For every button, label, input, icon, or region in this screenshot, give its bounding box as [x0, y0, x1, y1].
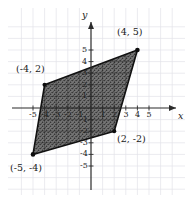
y-tick-label-neg1: -1 — [80, 116, 88, 124]
coordinate-plane-figure: y x -5 -4 -3 -2 -1 1 2 3 4 5 5 4 3 2 1 -… — [0, 0, 191, 200]
vertex-label-2-neg2: (2, -2) — [117, 134, 146, 144]
vertex-label-4-5: (4, 5) — [117, 27, 143, 37]
x-tick-label-neg5: -5 — [29, 111, 37, 119]
x-tick-label-neg4: -4 — [41, 111, 49, 119]
vertex-dot-2-neg2 — [112, 129, 116, 133]
y-tick-label-neg2: -2 — [80, 127, 88, 135]
x-tick-label-4: 4 — [135, 111, 140, 119]
y-tick-label-1: 1 — [82, 92, 87, 100]
y-tick-label-neg4: -4 — [80, 150, 88, 158]
y-tick-label-5: 5 — [82, 46, 87, 54]
y-tick-label-neg5: -5 — [80, 162, 88, 170]
y-tick-label-2: 2 — [82, 81, 87, 89]
y-tick-label-neg3: -3 — [80, 139, 88, 147]
x-tick-label-1: 1 — [101, 111, 106, 119]
y-axis-label: y — [82, 10, 87, 20]
vertex-label-neg4-2: (-4, 2) — [16, 64, 45, 74]
x-tick-label-2: 2 — [112, 111, 117, 119]
x-axis-label: x — [178, 111, 183, 121]
vertex-label-neg5-neg4: (-5, -4) — [10, 163, 42, 173]
vertex-dot-4-5 — [135, 48, 140, 53]
y-axis-arrow — [88, 22, 94, 29]
y-tick-label-3: 3 — [82, 69, 87, 77]
x-tick-label-3: 3 — [124, 111, 129, 119]
y-tick-label-4: 4 — [82, 58, 87, 66]
x-tick-label-neg3: -3 — [53, 111, 61, 119]
x-tick-label-neg2: -2 — [64, 111, 72, 119]
vertex-dot-neg5-neg4 — [31, 152, 36, 157]
vertex-dot-neg4-2 — [43, 83, 47, 87]
x-tick-label-5: 5 — [147, 111, 152, 119]
